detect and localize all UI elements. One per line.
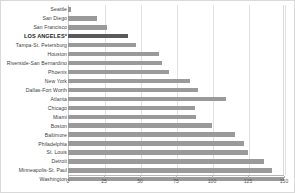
bar	[68, 7, 71, 11]
bar-track	[68, 5, 284, 14]
bar-row: Tampa-St. Petersburg	[1, 41, 295, 50]
bar	[68, 52, 159, 56]
tick-label-75: 75	[173, 178, 179, 185]
category-label: Miami	[0, 114, 67, 120]
category-label: Houston	[0, 51, 67, 57]
category-label: LOS ANGELES*	[0, 33, 67, 39]
category-label: Detroit	[0, 158, 67, 164]
bar	[68, 97, 226, 101]
tick-label-25: 25	[101, 178, 107, 185]
bar-track	[68, 77, 284, 86]
bar-row: Atlanta	[1, 94, 295, 103]
bar	[68, 88, 198, 92]
bar-track	[68, 85, 284, 94]
bar	[68, 106, 195, 110]
bar-track	[68, 166, 284, 175]
tick-label-0: 0	[67, 178, 70, 185]
bar	[68, 115, 196, 119]
bar	[68, 159, 264, 163]
category-label: Atlanta	[0, 96, 67, 102]
bar-row: Detroit	[1, 157, 295, 166]
bar-row: Phoenix	[1, 68, 295, 77]
tick-label-50: 50	[137, 178, 143, 185]
bar	[68, 61, 162, 65]
bar-row: Houston	[1, 50, 295, 59]
bar-track	[68, 148, 284, 157]
category-label: New York	[0, 78, 67, 84]
x-axis-ticks: 0255075100125150	[68, 176, 284, 188]
category-label: Chicago	[0, 105, 67, 111]
bar-row: New York	[1, 77, 295, 86]
bar-track	[68, 103, 284, 112]
bar	[68, 150, 248, 154]
bar-row: St. Louis	[1, 148, 295, 157]
category-label: Baltimore	[0, 132, 67, 138]
bar-track	[68, 121, 284, 130]
bar-row: LOS ANGELES*	[1, 32, 295, 41]
category-label: Seattle	[0, 6, 67, 12]
category-label: St. Louis	[0, 149, 67, 155]
bar-track	[68, 157, 284, 166]
bar-track	[68, 59, 284, 68]
bar-track	[68, 41, 284, 50]
bar-track	[68, 32, 284, 41]
category-label: Riverside-San Bernardino	[0, 60, 67, 66]
category-label: Phoenix	[0, 69, 67, 75]
bar-row: San Diego	[1, 14, 295, 23]
bar-row: Baltimore	[1, 130, 295, 139]
bar	[68, 132, 235, 136]
bar-row: Dallas-Fort Worth	[1, 85, 295, 94]
bar-row: San Francisco	[1, 23, 295, 32]
bar-track	[68, 23, 284, 32]
bar	[68, 25, 107, 29]
bar-row: Riverside-San Bernardino	[1, 59, 295, 68]
bar	[68, 141, 244, 145]
category-label: Washington	[0, 176, 67, 182]
tick-label-125: 125	[244, 178, 252, 185]
bar	[68, 123, 212, 127]
bar-track	[68, 139, 284, 148]
category-label: Philadelphia	[0, 141, 67, 147]
bar	[68, 79, 190, 83]
bar-track	[68, 112, 284, 121]
tick-label-100: 100	[208, 178, 216, 185]
bar-row: Minneapolis-St. Paul	[1, 166, 295, 175]
category-label: Boston	[0, 123, 67, 129]
bar-row: Seattle	[1, 5, 295, 14]
category-label: San Diego	[0, 15, 67, 21]
bar-track	[68, 130, 284, 139]
bar-row: Boston	[1, 121, 295, 130]
bar-track	[68, 94, 284, 103]
bar-track	[68, 14, 284, 23]
horizontal-bar-chart: SeattleSan DiegoSan FranciscoLOS ANGELES…	[0, 0, 295, 193]
bar-row: Philadelphia	[1, 139, 295, 148]
bar-row: Miami	[1, 112, 295, 121]
tick-label-150: 150	[280, 178, 288, 185]
category-label: Minneapolis-St. Paul	[0, 167, 67, 173]
bar	[68, 34, 128, 38]
bar	[68, 70, 169, 74]
bar	[68, 168, 272, 172]
bar-rows: SeattleSan DiegoSan FranciscoLOS ANGELES…	[1, 5, 295, 175]
bar	[68, 16, 97, 20]
bar	[68, 43, 136, 47]
category-label: Tampa-St. Petersburg	[0, 42, 67, 48]
bar-track	[68, 50, 284, 59]
category-label: San Francisco	[0, 24, 67, 30]
category-label: Dallas-Fort Worth	[0, 87, 67, 93]
bar-track	[68, 68, 284, 77]
bar-row: Chicago	[1, 103, 295, 112]
